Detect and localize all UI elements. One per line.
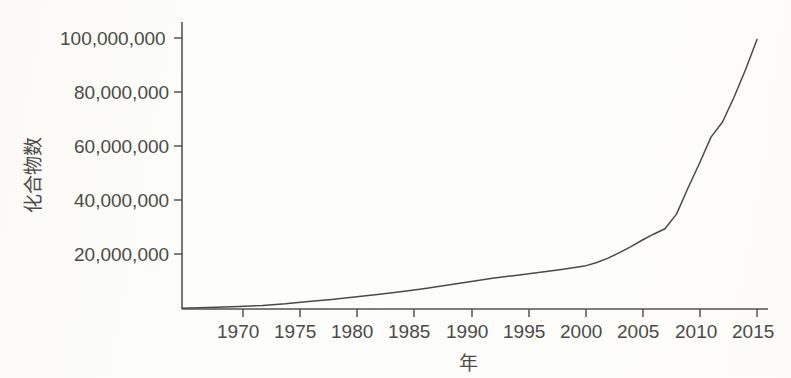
y-axis-ticks bbox=[174, 38, 182, 254]
x-axis-ticks bbox=[243, 309, 757, 317]
plot-area bbox=[0, 0, 791, 378]
chart-figure: 化合物数 100,000,000 80,000,000 60,000,000 4… bbox=[0, 0, 791, 378]
data-series-line bbox=[182, 40, 757, 309]
